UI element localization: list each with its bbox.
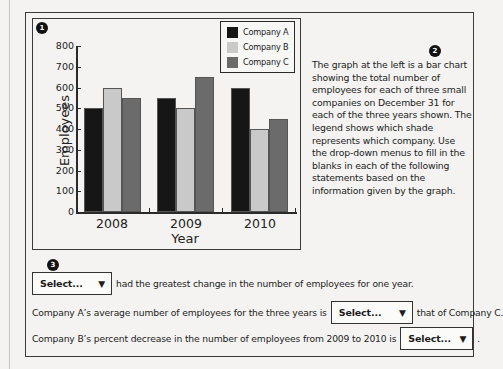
question-2: Company A’s average number of employees … — [32, 301, 503, 324]
dropdown-arrow-icon: ▼ — [399, 308, 406, 318]
y-tick — [76, 171, 81, 172]
bar-2009-company-b — [176, 108, 195, 212]
bar-2008-company-b — [103, 88, 122, 213]
y-tick-label: 700 — [44, 61, 74, 72]
bar-2008-company-c — [122, 98, 141, 212]
y-tick — [76, 150, 81, 151]
select-label: Select... — [408, 333, 451, 344]
dropdown-arrow-icon: ▼ — [460, 334, 467, 344]
legend-label-a: Company A — [243, 27, 288, 37]
dropdown-arrow-icon: ▼ — [98, 279, 105, 289]
badge-3: 3 — [47, 259, 59, 271]
x-axis-title: Year — [145, 231, 225, 246]
legend-item-company-c: Company C — [227, 55, 288, 69]
y-tick — [76, 108, 81, 109]
y-tick — [76, 67, 81, 68]
x-label-2009: 2009 — [161, 216, 211, 231]
bar-2010-company-a — [231, 88, 250, 213]
y-tick-label: 800 — [44, 40, 74, 51]
legend-swatch-a — [227, 27, 238, 38]
legend-label-b: Company B — [243, 42, 288, 52]
question-3-select[interactable]: Select... ▼ — [400, 327, 473, 350]
legend-label-c: Company C — [243, 57, 288, 67]
question-3-after: . — [477, 333, 480, 344]
page-edge — [9, 0, 10, 369]
legend-item-company-b: Company B — [227, 40, 288, 54]
legend-swatch-c — [227, 57, 238, 68]
bar-2009-company-a — [157, 98, 176, 212]
y-tick-label: 0 — [44, 206, 74, 217]
x-label-2008: 2008 — [87, 216, 137, 231]
y-tick — [76, 88, 81, 89]
x-tick — [149, 208, 150, 213]
bar-2009-company-c — [195, 77, 214, 212]
y-axis-title: Employees — [57, 91, 72, 171]
question-1: Select... ▼ had the greatest change in t… — [32, 272, 414, 295]
y-tick-label: 100 — [44, 185, 74, 196]
y-tick — [76, 46, 81, 47]
bar-2008-company-a — [84, 108, 103, 212]
select-label: Select... — [339, 307, 382, 318]
question-2-after: that of Company C. — [417, 307, 503, 318]
question-2-before: Company A’s average number of employees … — [32, 307, 327, 318]
bar-2010-company-b — [250, 129, 269, 212]
chart-legend: Company A Company B Company C — [220, 21, 295, 73]
x-label-2010: 2010 — [235, 216, 285, 231]
question-1-after: had the greatest change in the number of… — [116, 278, 414, 289]
description-text: The graph at the left is a bar chart sho… — [312, 59, 472, 198]
y-tick — [76, 191, 81, 192]
y-tick — [76, 212, 81, 213]
badge-1: 1 — [36, 22, 48, 34]
x-tick — [295, 208, 296, 213]
question-2-select[interactable]: Select... ▼ — [331, 301, 413, 324]
legend-swatch-b — [227, 42, 238, 53]
question-3: Company B’s percent decrease in the numb… — [32, 327, 480, 350]
x-tick — [222, 208, 223, 213]
question-1-select[interactable]: Select... ▼ — [32, 272, 112, 295]
question-3-before: Company B’s percent decrease in the numb… — [32, 333, 396, 344]
x-axis — [76, 212, 297, 214]
legend-item-company-a: Company A — [227, 25, 288, 39]
y-tick — [76, 129, 81, 130]
bar-2010-company-c — [269, 119, 288, 212]
badge-2: 2 — [429, 45, 441, 57]
select-label: Select... — [40, 278, 83, 289]
